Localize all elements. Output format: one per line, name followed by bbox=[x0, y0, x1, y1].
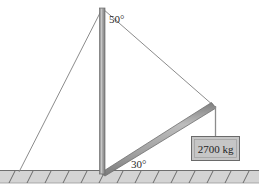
ground-group bbox=[0, 170, 259, 183]
cable-angle-label: 50° bbox=[109, 13, 124, 25]
load-box: 2700 kg bbox=[192, 137, 240, 161]
guy-wire bbox=[19, 9, 102, 172]
load-mass-label: 2700 kg bbox=[198, 143, 234, 155]
boom-angle-label: 30° bbox=[131, 158, 146, 170]
vertical-mast bbox=[100, 8, 106, 174]
diagram-canvas: 2700 kg 50° 30° bbox=[0, 0, 259, 194]
statics-diagram-figure: 2700 kg 50° 30° bbox=[0, 0, 259, 194]
mast-body bbox=[100, 8, 106, 174]
ground-band bbox=[0, 170, 259, 183]
